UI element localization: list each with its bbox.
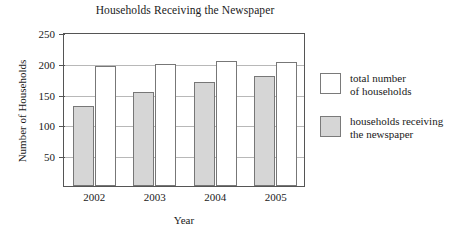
plot-area: 501001502002502002200320042005: [63, 33, 305, 187]
legend-label: total number of households: [350, 72, 411, 97]
y-axis-tick: [59, 126, 65, 127]
y-axis-tick-label: 250: [39, 28, 56, 40]
chart-legend: total number of householdshouseholds rec…: [320, 72, 443, 158]
legend-swatch-receiving: [320, 116, 341, 137]
y-axis-tick: [59, 65, 65, 66]
bar-2003-receiving: [133, 92, 154, 186]
x-axis-tick-label: 2005: [265, 191, 287, 203]
y-axis-tick: [59, 157, 65, 158]
bar-chart: Households Receiving the Newspaper Numbe…: [0, 0, 470, 240]
y-axis-tick-label: 200: [39, 59, 56, 71]
y-axis-tick-label: 50: [44, 151, 55, 163]
x-axis-tick-label: 2003: [144, 191, 166, 203]
bar-2005-total: [276, 62, 297, 186]
y-axis-tick: [59, 96, 65, 97]
bar-2002-receiving: [73, 106, 94, 186]
y-axis-tick-label: 150: [39, 90, 56, 102]
bar-2005-receiving: [254, 76, 275, 186]
legend-swatch-total: [320, 73, 341, 94]
bar-2002-total: [95, 66, 116, 186]
x-axis-label: Year: [63, 214, 305, 226]
bar-2004-total: [216, 61, 237, 186]
x-axis-tick-label: 2002: [83, 191, 105, 203]
y-axis-tick-label: 100: [39, 120, 56, 132]
legend-row: total number of households: [320, 72, 443, 97]
y-axis-label: Number of Households: [16, 31, 28, 191]
chart-title: Households Receiving the Newspaper: [60, 4, 310, 16]
bar-2003-total: [155, 64, 176, 186]
legend-row: households receiving the newspaper: [320, 115, 443, 140]
legend-label: households receiving the newspaper: [350, 115, 443, 140]
y-axis-tick: [59, 34, 65, 35]
bar-2004-receiving: [194, 82, 215, 186]
x-axis-tick-label: 2004: [204, 191, 226, 203]
